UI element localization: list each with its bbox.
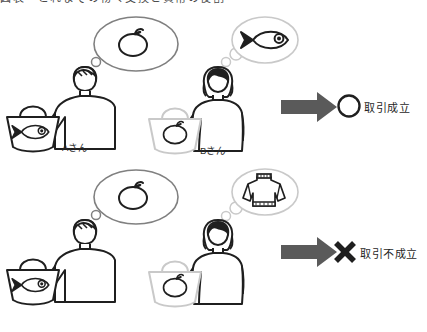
person-a-name-label: Aさん	[62, 140, 88, 154]
diagram-canvas: 図表 これまでの物々交換と貨幣の役割	[0, 0, 427, 332]
right-arrow-icon	[281, 92, 337, 122]
barter-diagram-svg	[0, 0, 427, 332]
bag-a-fish	[7, 107, 59, 152]
row-failure	[7, 169, 354, 307]
right-arrow-icon	[281, 237, 337, 267]
cross-mark-icon	[336, 243, 354, 261]
result-label-failure: 取引不成立	[360, 245, 418, 261]
thought-bubble-b-top	[222, 17, 299, 67]
thought-bubble-a-top	[92, 17, 179, 71]
thought-bubble-a-bottom	[92, 170, 179, 224]
person-b-name-label: Bさん	[200, 143, 226, 157]
row-success	[7, 17, 360, 154]
bag-a-fish	[7, 260, 59, 305]
result-label-success: 取引成立	[364, 99, 410, 115]
thought-bubble-b-bottom	[222, 169, 299, 221]
circle-mark-icon	[339, 96, 360, 117]
